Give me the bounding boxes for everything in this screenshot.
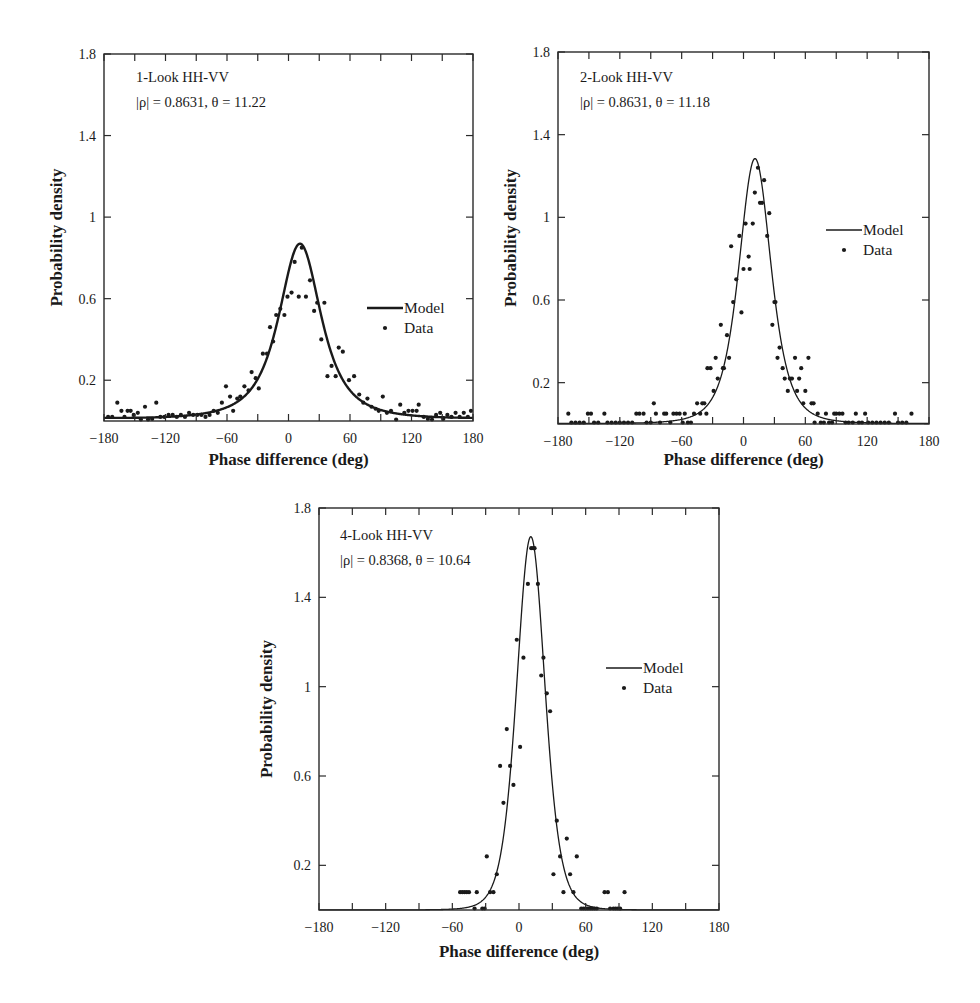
- data-point: [505, 727, 509, 731]
- y-tick-label: 1.8: [79, 47, 97, 62]
- data-point: [551, 872, 555, 876]
- data-point: [329, 364, 333, 368]
- chart-panel-1-look: −180−120−600601201800.20.611.41.8 1-Look…: [47, 47, 484, 469]
- data-point: [518, 745, 522, 749]
- data-point: [799, 366, 803, 370]
- data-point: [731, 300, 735, 304]
- x-axis-title: Phase difference (deg): [208, 450, 368, 469]
- legend: Model Data: [606, 659, 683, 696]
- data-point: [765, 234, 769, 238]
- data-point: [274, 313, 278, 317]
- x-tick-label: −180: [544, 434, 573, 449]
- y-axis-title: Probability density: [257, 639, 276, 778]
- data-point: [824, 412, 828, 416]
- legend-label-model: Model: [643, 659, 683, 676]
- chart-title: 2-Look HH-VV: [580, 69, 674, 85]
- data-point: [154, 401, 158, 405]
- data-point: [863, 412, 867, 416]
- x-tick-label: −120: [605, 434, 634, 449]
- data-point: [187, 411, 191, 415]
- data-point: [434, 413, 438, 417]
- data-point: [122, 415, 126, 419]
- data-point: [158, 415, 162, 419]
- data-point: [622, 890, 626, 894]
- data-point: [575, 854, 579, 858]
- figure: −180−120−600601201800.20.611.41.8 1-Look…: [0, 0, 980, 1003]
- data-point: [365, 396, 369, 400]
- x-tick-label: 180: [463, 431, 484, 446]
- data-point: [716, 376, 720, 380]
- data-point: [678, 412, 682, 416]
- data-point: [289, 290, 293, 294]
- data-point: [786, 389, 790, 393]
- data-point: [555, 819, 559, 823]
- data-point: [406, 409, 410, 413]
- y-tick-label: 1: [543, 210, 550, 225]
- data-point: [753, 190, 757, 194]
- y-tick-label: 1.4: [294, 590, 312, 605]
- data-point: [129, 409, 133, 413]
- data-point: [308, 278, 312, 282]
- chart-annotation: |ρ| = 0.8631, θ = 11.22: [136, 94, 266, 110]
- data-point: [760, 201, 764, 205]
- data-point: [762, 178, 766, 182]
- data-point: [110, 415, 114, 419]
- data-point: [347, 378, 351, 382]
- data-point: [300, 246, 304, 250]
- x-tick-label: 120: [857, 434, 878, 449]
- data-point: [725, 333, 729, 337]
- data-point: [212, 409, 216, 413]
- data-point: [664, 412, 668, 416]
- y-tick-label: 1.4: [79, 129, 97, 144]
- y-tick-label: 0.2: [533, 376, 551, 391]
- data-point: [692, 412, 696, 416]
- legend-label-data: Data: [643, 679, 672, 696]
- data-point: [285, 295, 289, 299]
- data-point: [220, 401, 224, 405]
- data-point: [840, 412, 844, 416]
- y-tick-label: 0.6: [533, 293, 551, 308]
- data-point: [511, 783, 515, 787]
- legend-dot-icon: [842, 248, 846, 252]
- data-point: [268, 325, 272, 329]
- data-point: [536, 582, 540, 586]
- y-axis-title: Probability density: [47, 168, 66, 307]
- data-point: [734, 277, 738, 281]
- y-tick-label: 1.4: [533, 128, 551, 143]
- data-point: [708, 366, 712, 370]
- data-point: [641, 412, 645, 416]
- data-point: [767, 211, 771, 215]
- data-point: [325, 374, 329, 378]
- x-tick-label: 0: [740, 434, 747, 449]
- data-point: [315, 301, 319, 305]
- data-point: [282, 313, 286, 317]
- data-point: [541, 656, 545, 660]
- chart-panel-2-look: −180−120−600601201800.20.611.41.8 2-Look…: [501, 45, 940, 469]
- data-point: [385, 411, 389, 415]
- data-point: [357, 392, 361, 396]
- data-point: [526, 582, 530, 586]
- data-point: [257, 386, 261, 390]
- x-axis-title: Phase difference (deg): [663, 450, 823, 469]
- x-axis-title: Phase difference (deg): [439, 942, 599, 961]
- data-point: [293, 260, 297, 264]
- legend: Model Data: [367, 299, 444, 336]
- data-point: [352, 374, 356, 378]
- data-point: [816, 412, 820, 416]
- data-point: [654, 412, 658, 416]
- data-point: [501, 801, 505, 805]
- data-point: [377, 409, 381, 413]
- x-tick-label: 120: [401, 431, 422, 446]
- x-tick-label: 0: [285, 431, 292, 446]
- data-point: [475, 890, 479, 894]
- data-point: [449, 415, 453, 419]
- data-points: [458, 546, 627, 911]
- data-point: [278, 307, 282, 311]
- x-tick-label: 180: [919, 434, 940, 449]
- data-point: [467, 890, 471, 894]
- legend: Model Data: [826, 221, 903, 258]
- data-point: [203, 415, 207, 419]
- y-tick-label: 1: [304, 680, 311, 695]
- data-point: [756, 166, 760, 170]
- data-point: [532, 546, 536, 550]
